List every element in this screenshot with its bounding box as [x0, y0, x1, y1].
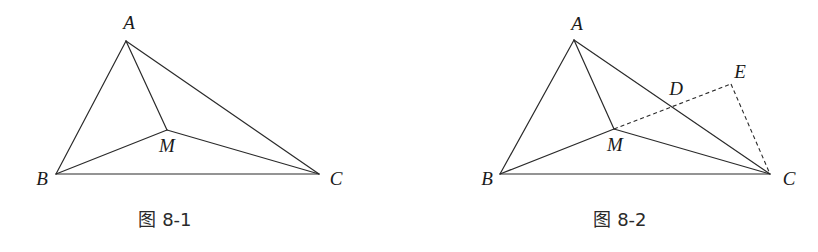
- segment-BM: [56, 130, 167, 174]
- label-C: C: [330, 168, 343, 189]
- segment-BM: [500, 129, 614, 174]
- figure-8-1: A B C M 图 8-1: [36, 12, 342, 230]
- label-D: D: [668, 78, 683, 99]
- label-M: M: [158, 135, 176, 156]
- segment-CM: [167, 130, 319, 174]
- label-M: M: [606, 134, 624, 155]
- label-A: A: [121, 12, 135, 33]
- geometry-diagram: A B C M 图 8-1 A B C M D E 图 8-2: [0, 0, 818, 252]
- segment-AB: [500, 40, 574, 174]
- label-E: E: [733, 61, 746, 82]
- label-B: B: [481, 168, 493, 189]
- segment-AM: [126, 41, 167, 130]
- segment-AC: [126, 41, 319, 174]
- figure-8-2: A B C M D E 图 8-2: [481, 13, 795, 230]
- figure-caption: 图 8-2: [593, 209, 646, 230]
- label-C: C: [783, 168, 796, 189]
- segment-CM: [614, 129, 770, 174]
- label-A: A: [569, 13, 583, 34]
- segment-AB: [56, 41, 126, 174]
- figure-caption: 图 8-1: [138, 209, 191, 230]
- label-B: B: [36, 168, 48, 189]
